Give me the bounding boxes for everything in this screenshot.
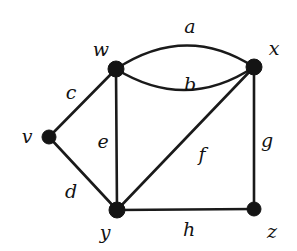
vertex-label-z: z <box>267 222 277 241</box>
edge-label-e: e <box>97 132 108 151</box>
edge-label-d: d <box>65 182 77 201</box>
vertex-dot-x <box>246 59 262 75</box>
vertex-label-y: y <box>100 223 111 242</box>
edge-label-g: g <box>261 131 273 150</box>
vertex-dot-y <box>109 202 125 218</box>
edge-layer <box>49 45 254 210</box>
edge-a <box>116 45 254 69</box>
edge-label-h: h <box>183 220 195 239</box>
edge-c <box>49 69 116 137</box>
graph-svg <box>0 0 297 251</box>
edge-label-c: c <box>66 83 77 102</box>
vertex-dot-v <box>42 130 56 144</box>
vertex-label-w: w <box>93 40 109 59</box>
edge-h <box>117 209 254 210</box>
edge-label-a: a <box>184 17 195 36</box>
graph-diagram-canvas: v w x y z a b c d e f g h <box>0 0 297 251</box>
vertex-label-x: x <box>269 39 280 58</box>
edge-label-f: f <box>198 145 205 164</box>
vertex-label-v: v <box>22 127 33 146</box>
vertex-dot-w <box>108 61 124 77</box>
edge-label-b: b <box>184 75 196 94</box>
edge-e <box>116 69 117 210</box>
vertex-dot-z <box>247 202 261 216</box>
